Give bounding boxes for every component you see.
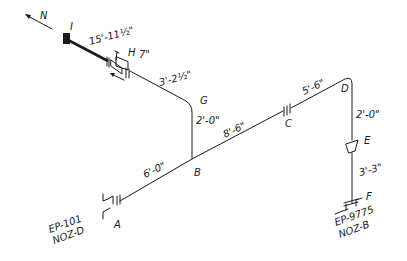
reducer-body	[346, 140, 358, 153]
valve-H: H 7"	[107, 47, 150, 80]
dim-I-H: 15'-11½"	[88, 24, 135, 47]
segment-H-G: 3'-2½" G 2'-0"	[130, 69, 220, 158]
north-arrow-head	[25, 14, 31, 19]
point-I-flange	[63, 33, 70, 44]
label-C: C	[285, 118, 292, 129]
label-D: D	[341, 83, 349, 94]
north-arrow: N	[25, 10, 52, 29]
reducer-E: E 3'-3"	[346, 135, 383, 203]
label-G: G	[200, 95, 208, 106]
dim-E-F: 3'-3"	[358, 161, 384, 178]
label-A: A	[113, 219, 121, 230]
label-E: E	[364, 135, 371, 146]
dim-A-B: 6'-0"	[141, 160, 167, 180]
nozzle-A-flange	[103, 194, 113, 204]
dim-H-valve: 7"	[139, 49, 150, 60]
label-B: B	[194, 167, 201, 178]
label-I: I	[70, 21, 73, 32]
nozzle-F: F EP-9775 NOZ-B	[333, 191, 375, 240]
north-label: N	[40, 10, 48, 21]
dim-C-D: 5'-6"	[300, 77, 326, 97]
label-H: H	[128, 47, 136, 58]
isometric-piping-diagram: N I 15'-11½" H 7" 3'-2½" G 2'-0" A	[0, 0, 407, 261]
segment-A-B: A 6'-0" EP-101 NOZ-D	[47, 159, 192, 246]
segment-I-H: I 15'-11½"	[63, 21, 135, 61]
dim-G-B: 2'-0"	[196, 115, 220, 126]
dim-D-E: 2'-0"	[356, 109, 380, 120]
label-F: F	[366, 191, 372, 202]
dim-H-G: 3'-2½"	[158, 69, 193, 88]
